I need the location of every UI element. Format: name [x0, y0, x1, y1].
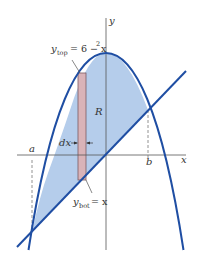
y-axis-label: y [108, 15, 115, 26]
top-curve-label-sub: top [57, 49, 68, 57]
strip-dx-label: dx [59, 137, 71, 148]
bound-b-label: b [146, 156, 152, 167]
region-label: R [94, 106, 103, 117]
bot-curve-label-sub: bot [79, 202, 90, 210]
top-curve-label-sup: 2 [96, 40, 100, 48]
bot-curve-label-rhs: = x [91, 196, 108, 207]
bot-curve-label-var: y [72, 196, 79, 207]
top-label-leader [72, 60, 80, 73]
top-curve-label-var: y [50, 43, 57, 54]
region-diagram: y x y top = 6 − x 2 R dx a b y bot = x [0, 0, 201, 262]
strip-rectangle [78, 73, 86, 180]
bot-label-leader [86, 180, 92, 193]
top-curve-label-rhs: = 6 − x [70, 43, 107, 54]
x-axis-label: x [181, 154, 187, 165]
bound-a-label: a [29, 143, 35, 154]
